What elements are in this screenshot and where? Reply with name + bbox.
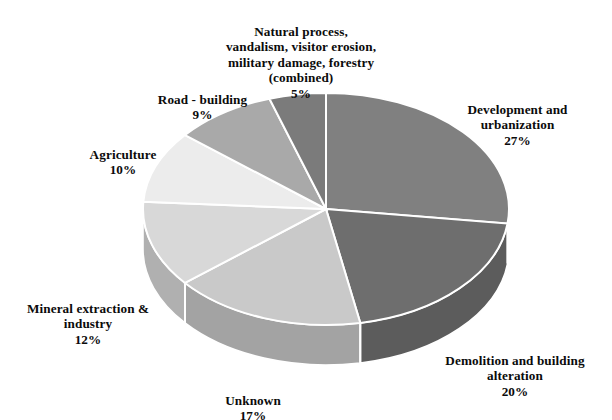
slice-label-agriculture-name: Agriculture (90, 147, 157, 162)
slice-label-unknown-name: Unknown (225, 393, 281, 408)
slice-label-mineral-extraction: Mineral extraction & industry 12% (2, 285, 174, 363)
slice-label-development: Development and urbanization 27% (430, 86, 605, 164)
slice-label-demolition-percent: 20% (420, 384, 610, 400)
slice-label-mineral-extraction-percent: 12% (2, 332, 174, 348)
slice-label-demolition: Demolition and building alteration 20% (420, 337, 610, 415)
slice-label-development-percent: 27% (430, 133, 605, 149)
pie-chart: Development and urbanization 27% Demolit… (0, 0, 612, 420)
slice-label-unknown-percent: 17% (173, 408, 333, 420)
slice-label-natural-process-name: Natural process, vandalism, visitor eros… (226, 24, 376, 86)
slice-label-natural-process: Natural process, vandalism, visitor eros… (196, 8, 406, 117)
slice-label-agriculture: Agriculture 10% (48, 131, 198, 193)
slice-label-mineral-extraction-name: Mineral extraction & industry (27, 301, 149, 332)
slice-label-demolition-name: Demolition and building alteration (445, 353, 584, 384)
slice-label-natural-process-percent: 5% (196, 86, 406, 102)
slice-label-development-name: Development and urbanization (467, 102, 567, 133)
slice-label-unknown: Unknown 17% (173, 377, 333, 420)
slice-label-agriculture-percent: 10% (48, 162, 198, 178)
